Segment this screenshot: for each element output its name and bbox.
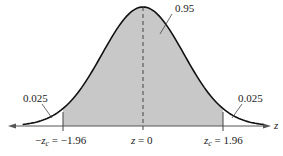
center-area-label: 0.95 xyxy=(175,2,195,14)
axis-arrow-right-icon xyxy=(263,124,271,129)
left-tail-area-label: 0.025 xyxy=(23,92,48,104)
normal-distribution-chart: 0.95 0.025 0.025 z −zc = −1.96 z = 0 zc … xyxy=(0,0,283,156)
center-label: z = 0 xyxy=(130,134,153,146)
right-tail-area-label: 0.025 xyxy=(238,92,263,104)
left-tail-leader xyxy=(42,104,52,118)
axis-arrow-left-icon xyxy=(8,124,16,129)
right-tail-leader xyxy=(232,104,242,118)
right-critical-label: zc = 1.96 xyxy=(203,134,243,148)
left-critical-label: −zc = −1.96 xyxy=(35,134,87,148)
axis-label: z xyxy=(273,119,279,131)
